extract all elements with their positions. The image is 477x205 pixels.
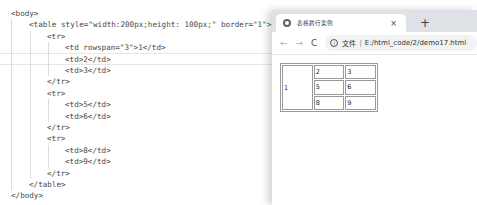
code-line[interactable]: <tr>: [47, 133, 65, 144]
tab-title: 表格跨行案例: [297, 19, 390, 27]
code-line[interactable]: <body>: [11, 8, 38, 19]
table-cell: 3: [345, 65, 376, 79]
back-arrow-icon[interactable]: ←: [280, 38, 288, 48]
indent-guide: [30, 31, 31, 179]
browser-tab[interactable]: 表格跨行案例 ×: [276, 14, 406, 32]
code-line[interactable]: <tr>: [47, 31, 65, 42]
code-line[interactable]: </table>: [29, 179, 66, 190]
globe-icon: [283, 19, 291, 27]
code-line[interactable]: </tr>: [47, 76, 70, 87]
forward-arrow-icon[interactable]: →: [296, 38, 304, 48]
browser-toolbar: ← → C i 文件 | E:/html_code/2/demo17.html: [272, 32, 477, 55]
table-cell: 2: [314, 65, 345, 79]
code-line[interactable]: </body>: [11, 190, 43, 201]
indent-guide: [48, 42, 49, 76]
table-cell: 5: [314, 80, 345, 94]
table-cell: 1: [282, 65, 313, 110]
browser-window: 表格跨行案例 × + ← → C i 文件 | E:/html_code/2/d…: [272, 10, 477, 205]
table-cell: 8: [314, 96, 345, 110]
url-text: E:/html_code/2/demo17.html: [365, 39, 467, 47]
address-bar[interactable]: i 文件 | E:/html_code/2/demo17.html: [325, 35, 477, 51]
indent-guide: [48, 145, 49, 168]
code-line[interactable]: <td>9</td>: [65, 156, 111, 167]
rowspan-table: 1 2 3 5 6 8 9: [280, 63, 378, 112]
code-line[interactable]: <td rowspan="3">1</td>: [65, 42, 166, 53]
code-line[interactable]: <table style="width:200px;height: 100px;…: [29, 19, 271, 30]
info-icon[interactable]: i: [330, 39, 338, 47]
page-content: 1 2 3 5 6 8 9: [272, 55, 477, 205]
table-row: 1 2 3: [282, 65, 376, 79]
code-line[interactable]: </tr>: [47, 168, 70, 179]
url-scheme-label: 文件: [342, 38, 356, 48]
code-line[interactable]: </tr>: [47, 122, 70, 133]
table-cell: 9: [345, 96, 376, 110]
indent-guide: [11, 19, 12, 190]
indent-guide: [48, 99, 49, 122]
reload-icon[interactable]: C: [311, 38, 317, 48]
code-line[interactable]: <td>2</td>: [65, 54, 111, 65]
code-line[interactable]: <td>6</td>: [65, 111, 111, 122]
url-separator: |: [359, 39, 361, 47]
code-line[interactable]: <td>8</td>: [65, 145, 111, 156]
new-tab-button[interactable]: +: [420, 16, 430, 30]
current-line-highlight: [0, 53, 272, 65]
close-tab-icon[interactable]: ×: [390, 19, 397, 28]
table-cell: 6: [345, 80, 376, 94]
code-line[interactable]: <tr>: [47, 88, 65, 99]
tab-strip: 表格跨行案例 × +: [272, 10, 477, 32]
code-line[interactable]: <td>3</td>: [65, 65, 111, 76]
code-line[interactable]: <td>5</td>: [65, 99, 111, 110]
